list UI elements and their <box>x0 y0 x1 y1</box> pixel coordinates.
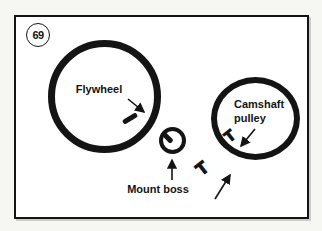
figure-number: 69 <box>32 29 43 41</box>
camshaft-pulley-label: Camshaft pulley <box>234 97 284 125</box>
mount-boss-label: Mount boss <box>108 183 208 195</box>
figure-number-badge: 69 <box>26 23 50 47</box>
flywheel-label: Flywheel <box>49 83 149 95</box>
camshaft-pulley-label-line2: pulley <box>234 111 284 125</box>
scanned-manual-figure: 69 Flywheel Mount boss Camshaft pulley T… <box>0 0 322 231</box>
camshaft-pulley-label-line1: Camshaft <box>234 97 284 111</box>
belt-mark-arrow <box>215 175 230 199</box>
flywheel-circle <box>48 40 161 153</box>
figure-frame: 69 Flywheel Mount boss Camshaft pulley T… <box>14 15 309 219</box>
belt-t-timing-mark: T <box>193 159 212 179</box>
